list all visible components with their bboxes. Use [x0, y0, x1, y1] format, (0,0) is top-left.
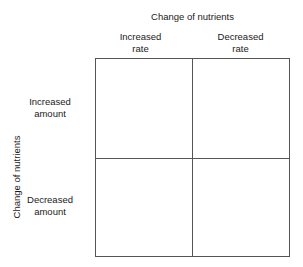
left-axis-title: Change of nutrients — [11, 136, 22, 219]
row-label-line-1: Decreased — [10, 194, 90, 206]
nutrient-change-matrix-figure: Change of nutrients Increased rate Decre… — [0, 0, 303, 267]
row-label-increased-amount: Increased amount — [10, 96, 90, 119]
quadrant-decreased-amount-decreased-rate[interactable] — [193, 159, 289, 258]
row-label-line-1: Increased — [10, 96, 90, 108]
quadrant-increased-amount-increased-rate[interactable] — [96, 59, 192, 158]
quadrant-decreased-amount-increased-rate[interactable] — [96, 159, 192, 258]
row-label-line-2: amount — [10, 108, 90, 120]
matrix-box — [95, 58, 290, 257]
column-header-line-1: Increased — [92, 31, 189, 43]
top-axis-title: Change of nutrients — [95, 11, 290, 22]
quadrant-increased-amount-decreased-rate[interactable] — [193, 59, 289, 158]
column-header-decreased-rate: Decreased rate — [192, 31, 289, 54]
column-header-line-1: Decreased — [192, 31, 289, 43]
column-header-increased-rate: Increased rate — [92, 31, 189, 54]
row-label-line-2: amount — [10, 206, 90, 218]
column-header-line-2: rate — [192, 43, 289, 55]
row-label-decreased-amount: Decreased amount — [10, 194, 90, 217]
column-header-line-2: rate — [92, 43, 189, 55]
